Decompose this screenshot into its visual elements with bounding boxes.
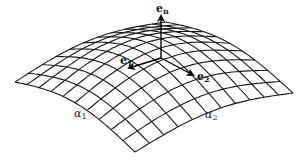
surface-grid: [15, 22, 293, 152]
grid-line-alpha1: [152, 24, 278, 95]
en-label: en: [156, 2, 169, 16]
grid-line-alpha2: [99, 60, 255, 120]
grid-line-alpha1: [43, 65, 164, 135]
grid-line-alpha2: [123, 82, 280, 141]
grid-line-alpha2: [135, 93, 293, 152]
e1-label: e1: [120, 54, 133, 68]
shell-surface-diagram: en e1 e2 α1 α2: [0, 0, 305, 161]
